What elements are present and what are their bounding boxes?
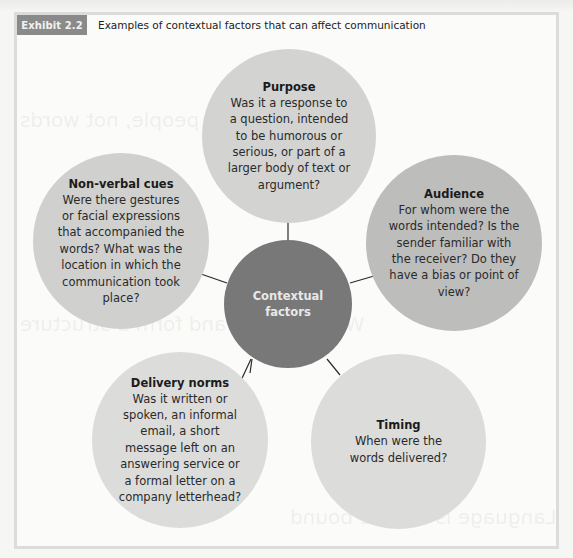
- connector-timing: [327, 359, 340, 375]
- node-purpose: Purpose Was it a response to a question,…: [202, 49, 376, 223]
- connector-audience: [350, 276, 374, 283]
- connector-non-verbal: [201, 274, 227, 283]
- node-non-verbal-cues-title: Non-verbal cues: [68, 176, 173, 192]
- node-audience-title: Audience: [424, 186, 484, 202]
- node-timing-body: When were the words delivered?: [337, 433, 461, 466]
- node-purpose-title: Purpose: [262, 79, 315, 95]
- node-delivery-norms-body: Was it written or spoken, an informal em…: [116, 391, 244, 506]
- node-non-verbal-cues-body: Were there gestures or facial expression…: [56, 192, 186, 307]
- node-center: Contextual factors: [224, 240, 352, 368]
- node-audience: Audience For whom were the words intende…: [366, 155, 542, 331]
- node-purpose-body: Was it a response to a question, intende…: [227, 95, 351, 193]
- node-timing-title: Timing: [376, 417, 420, 433]
- node-delivery-norms: Delivery norms Was it written or spoken,…: [92, 352, 268, 528]
- node-audience-body: For whom were the words intended? Is the…: [387, 202, 521, 300]
- node-center-label: Contextual factors: [248, 288, 328, 320]
- node-non-verbal-cues: Non-verbal cues Were there gestures or f…: [33, 153, 209, 329]
- node-delivery-norms-title: Delivery norms: [131, 375, 229, 391]
- node-timing: Timing When were the words delivered?: [311, 354, 486, 529]
